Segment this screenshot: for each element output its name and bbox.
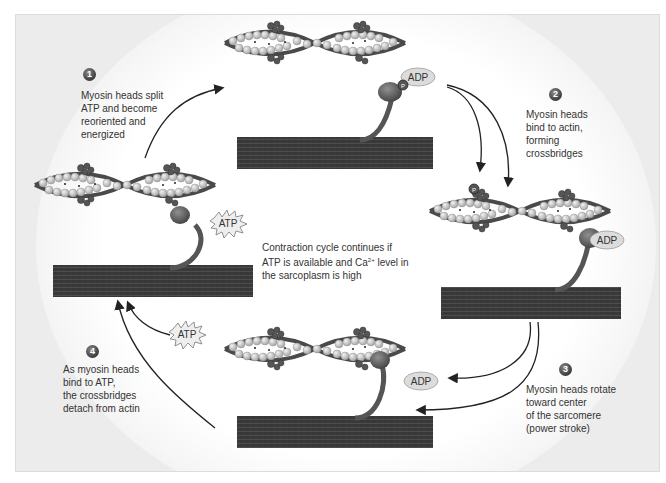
stage-right: ADP P	[430, 184, 624, 319]
thick-filament-left	[53, 265, 253, 297]
step-4-text: As myosin heads bind to ATP, the crossbr…	[63, 363, 140, 415]
myosin-head-left	[170, 206, 190, 224]
cycle-arrow-icon	[128, 303, 170, 335]
step-badge-2: 2	[549, 88, 562, 101]
cycle-arrow-icon	[450, 322, 530, 378]
step-2-text: Myosin heads bind to actin, forming cros…	[526, 108, 588, 160]
thick-filament-bottom	[237, 416, 433, 448]
myosin-head-bottom	[370, 351, 390, 369]
center-note: Contraction cycle continues if ATP is av…	[262, 241, 409, 282]
step-badge-1: 1	[83, 68, 96, 81]
stage-bottom: ADP	[225, 327, 438, 448]
svg-text:P: P	[472, 187, 476, 193]
svg-text:ADP: ADP	[597, 235, 618, 246]
svg-text:ATP: ATP	[219, 218, 238, 229]
cycle-arrow-icon	[447, 85, 509, 185]
step-1-text: Myosin heads split ATP and become reorie…	[81, 89, 163, 141]
step-badge-3: 3	[559, 363, 572, 376]
top-adp-label: ADP	[408, 72, 429, 83]
thick-filament-top	[237, 137, 433, 169]
stage-left: ATP	[35, 163, 253, 297]
atp-incoming: ATP	[169, 321, 206, 349]
thick-filament-right	[441, 287, 621, 319]
svg-text:ATP: ATP	[178, 329, 197, 340]
cycle-arrow-icon	[418, 322, 539, 410]
step-badge-4: 4	[86, 345, 99, 358]
cycle-arrow-icon	[447, 87, 481, 170]
svg-text:P: P	[401, 83, 405, 89]
step-3-text: Myosin heads rotate toward center of the…	[526, 383, 616, 435]
stage-top: ADP P	[225, 21, 435, 169]
svg-text:ADP: ADP	[411, 376, 432, 387]
